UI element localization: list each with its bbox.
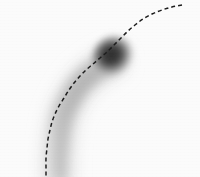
figure-container: Curved particle trail with dashed refere… (0, 0, 200, 177)
trajectory-plot (0, 0, 200, 177)
